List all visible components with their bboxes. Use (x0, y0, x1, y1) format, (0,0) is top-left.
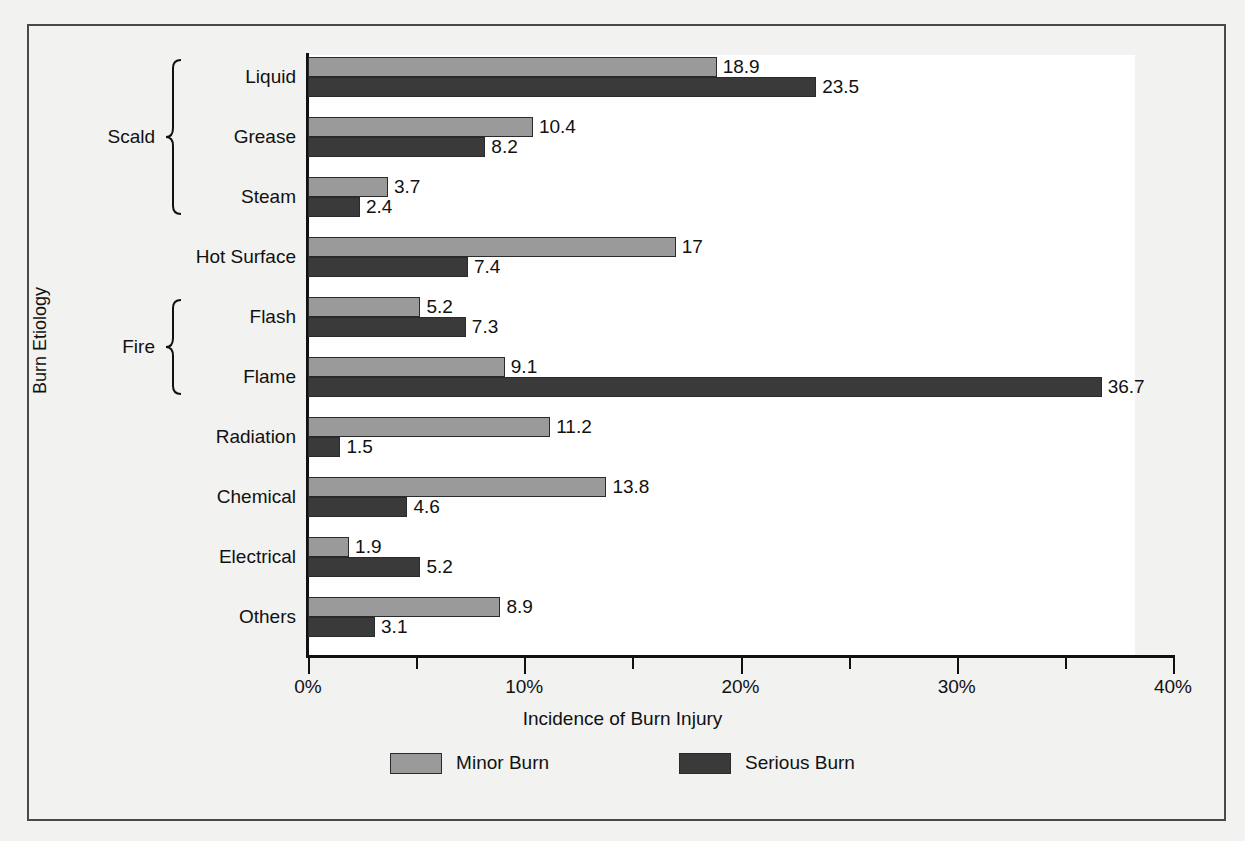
bar-electrical-minor (308, 537, 349, 557)
bar-liquid-serious (308, 77, 816, 97)
bar-radiation-minor-value-label: 11.2 (556, 417, 592, 437)
bar-chemical-serious-value-label: 4.6 (413, 497, 439, 517)
group-label-fire: Fire (60, 336, 155, 358)
bar-grease-minor-value-label: 10.4 (539, 117, 576, 137)
bar-others-minor-value-label: 8.9 (506, 597, 532, 617)
group-brace-fire (163, 299, 185, 395)
chart-legend: Minor Burn Serious Burn (0, 752, 1245, 774)
x-tick-label: 10% (505, 676, 543, 698)
group-label-scald: Scald (60, 126, 155, 148)
legend-swatch-minor-burn (390, 753, 442, 774)
bar-radiation-serious-value-label: 1.5 (346, 437, 372, 457)
category-label-chemical: Chemical (217, 487, 296, 507)
bar-flash-minor-value-label: 5.2 (426, 297, 452, 317)
x-tick-minor (632, 658, 634, 669)
x-tick-major (524, 658, 526, 674)
category-label-hot-surface: Hot Surface (196, 247, 296, 267)
bar-chemical-serious (308, 497, 407, 517)
bar-grease-serious (308, 137, 485, 157)
bar-steam-serious-value-label: 2.4 (366, 197, 392, 217)
x-tick-label: 20% (721, 676, 759, 698)
x-tick-label: 40% (1154, 676, 1192, 698)
bar-electrical-serious (308, 557, 420, 577)
legend-swatch-serious-burn (679, 753, 731, 774)
bar-electrical-minor-value-label: 1.9 (355, 537, 381, 557)
bar-radiation-serious (308, 437, 340, 457)
category-label-steam: Steam (241, 187, 296, 207)
bar-flame-minor-value-label: 9.1 (511, 357, 537, 377)
x-tick-major (957, 658, 959, 674)
bar-steam-serious (308, 197, 360, 217)
bar-others-serious-value-label: 3.1 (381, 617, 407, 637)
category-label-radiation: Radiation (216, 427, 296, 447)
category-label-liquid: Liquid (245, 67, 296, 87)
bar-grease-minor (308, 117, 533, 137)
x-tick-minor (1065, 658, 1067, 669)
bar-radiation-minor (308, 417, 550, 437)
legend-item-minor-burn: Minor Burn (390, 752, 549, 774)
category-label-grease: Grease (234, 127, 296, 147)
bar-flame-serious-value-label: 36.7 (1108, 377, 1145, 397)
bar-flame-minor (308, 357, 505, 377)
chart-figure: 0%10%20%30%40% 18.923.510.48.23.72.4177.… (0, 0, 1245, 841)
x-tick-minor (849, 658, 851, 669)
y-axis-title: Burn Etiology (30, 241, 51, 441)
x-tick-label: 0% (294, 676, 321, 698)
bar-chemical-minor (308, 477, 606, 497)
bar-hot-surface-serious-value-label: 7.4 (474, 257, 500, 277)
x-tick-major (308, 658, 310, 674)
bar-hot-surface-minor (308, 237, 676, 257)
bar-flash-minor (308, 297, 420, 317)
bar-steam-minor (308, 177, 388, 197)
bar-chemical-minor-value-label: 13.8 (612, 477, 649, 497)
x-tick-major (741, 658, 743, 674)
category-label-flash: Flash (250, 307, 296, 327)
bar-flash-serious-value-label: 7.3 (472, 317, 498, 337)
bar-flash-serious (308, 317, 466, 337)
x-tick-minor (416, 658, 418, 669)
x-axis-title: Incidence of Burn Injury (0, 708, 1245, 730)
category-label-electrical: Electrical (219, 547, 296, 567)
bar-liquid-minor (308, 57, 717, 77)
bar-others-serious (308, 617, 375, 637)
bar-liquid-minor-value-label: 18.9 (723, 57, 760, 77)
legend-label-minor-burn: Minor Burn (456, 752, 549, 774)
bar-electrical-serious-value-label: 5.2 (426, 557, 452, 577)
x-tick-major (1173, 658, 1175, 674)
bar-liquid-serious-value-label: 23.5 (822, 77, 859, 97)
category-label-flame: Flame (243, 367, 296, 387)
bar-steam-minor-value-label: 3.7 (394, 177, 420, 197)
legend-label-serious-burn: Serious Burn (745, 752, 855, 774)
bar-flame-serious (308, 377, 1102, 397)
category-label-others: Others (239, 607, 296, 627)
legend-item-serious-burn: Serious Burn (679, 752, 855, 774)
x-tick-label: 30% (938, 676, 976, 698)
group-brace-scald (163, 59, 185, 215)
bar-hot-surface-minor-value-label: 17 (682, 237, 703, 257)
bar-others-minor (308, 597, 500, 617)
bar-hot-surface-serious (308, 257, 468, 277)
bar-grease-serious-value-label: 8.2 (491, 137, 517, 157)
